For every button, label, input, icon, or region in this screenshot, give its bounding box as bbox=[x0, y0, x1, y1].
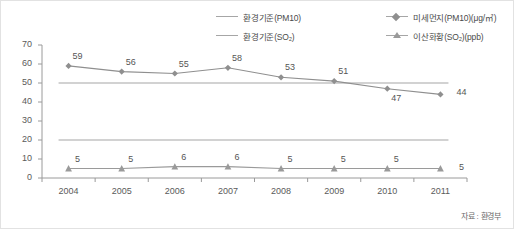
series-line bbox=[69, 167, 441, 169]
data-point-label: 5 bbox=[116, 154, 146, 164]
data-point-marker bbox=[172, 70, 178, 76]
plot-svg bbox=[1, 41, 514, 201]
x-axis-tick-label: 2008 bbox=[257, 186, 305, 196]
data-point-label: 58 bbox=[222, 53, 252, 63]
y-axis-tick-label: 10 bbox=[8, 153, 32, 163]
x-axis-tick-label: 2004 bbox=[45, 186, 93, 196]
y-axis-tick-label: 70 bbox=[8, 39, 32, 49]
data-point-label: 53 bbox=[275, 62, 305, 72]
data-point-label: 5 bbox=[446, 162, 476, 172]
y-axis-tick-label: 0 bbox=[8, 172, 32, 182]
source-note: 자료 : 환경부 bbox=[461, 210, 501, 221]
y-axis-tick-label: 30 bbox=[8, 115, 32, 125]
series-line bbox=[69, 66, 441, 95]
y-axis-tick-label: 40 bbox=[8, 96, 32, 106]
data-point-marker bbox=[278, 74, 284, 80]
data-point-marker bbox=[119, 69, 125, 75]
x-axis-tick-label: 2011 bbox=[416, 186, 464, 196]
triangle-marker-icon bbox=[386, 31, 408, 41]
data-point-label: 5 bbox=[63, 154, 93, 164]
data-point-label: 5 bbox=[275, 154, 305, 164]
data-point-label: 5 bbox=[381, 154, 411, 164]
legend-label: 환경기준(PM10) bbox=[243, 11, 301, 23]
data-point-label: 56 bbox=[116, 57, 146, 67]
data-point-label: 5 bbox=[328, 154, 358, 164]
data-point-label: 6 bbox=[222, 152, 252, 162]
data-point-label: 44 bbox=[446, 87, 476, 97]
y-axis-tick-label: 60 bbox=[8, 58, 32, 68]
x-axis-tick-label: 2006 bbox=[151, 186, 199, 196]
y-axis-tick-label: 50 bbox=[8, 77, 32, 87]
legend-item-pm10-series: 미세먼지(PM10)(μg/㎥) bbox=[386, 11, 496, 23]
y-axis-tick-label: 20 bbox=[8, 134, 32, 144]
data-point-label: 6 bbox=[169, 152, 199, 162]
data-point-label: 55 bbox=[169, 59, 199, 69]
legend-item-pm10-standard: 환경기준(PM10) bbox=[216, 11, 301, 23]
air-quality-line-chart: 환경기준(PM10) 환경기준(SO₂) 미세먼지(PM10)(μg/㎥) 이산… bbox=[0, 0, 514, 229]
line-swatch-icon bbox=[216, 31, 238, 41]
plot-area bbox=[1, 41, 514, 201]
data-point-label: 47 bbox=[381, 93, 411, 103]
x-axis-tick-label: 2005 bbox=[98, 186, 146, 196]
data-point-label: 51 bbox=[328, 66, 358, 76]
legend-label: 미세먼지(PM10)(μg/㎥) bbox=[413, 11, 496, 23]
data-point-marker bbox=[384, 86, 390, 92]
data-point-marker bbox=[437, 91, 443, 97]
x-axis-tick-label: 2007 bbox=[204, 186, 252, 196]
line-swatch-icon bbox=[216, 12, 238, 22]
data-point-marker bbox=[65, 63, 71, 69]
x-axis-tick-label: 2010 bbox=[363, 186, 411, 196]
diamond-marker-icon bbox=[386, 12, 408, 22]
x-axis-tick-label: 2009 bbox=[310, 186, 358, 196]
data-point-label: 59 bbox=[63, 51, 93, 61]
data-point-marker bbox=[225, 65, 231, 71]
